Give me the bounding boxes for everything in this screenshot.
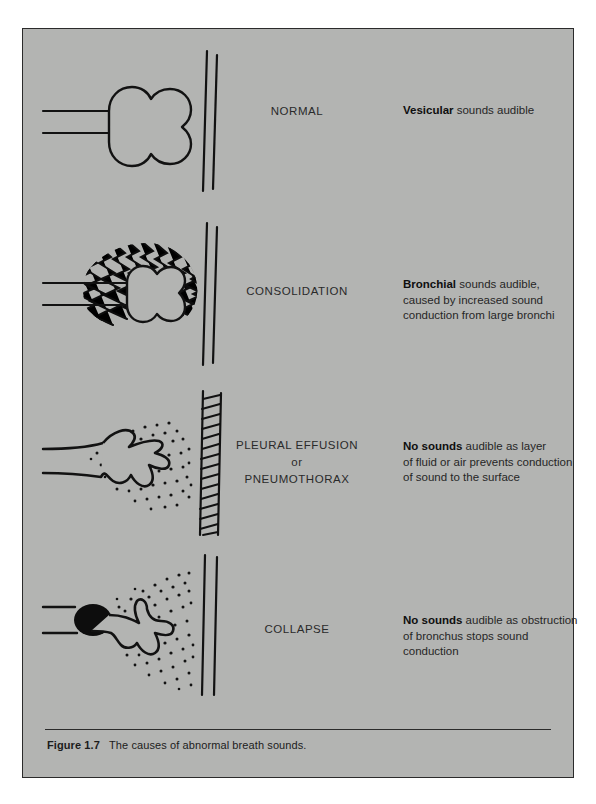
description-line3-effusion: of sound to the surface <box>403 470 579 486</box>
description-bold-collapse: No sounds <box>403 614 462 626</box>
description-consolidation: Bronchial sounds audible, caused by incr… <box>403 277 579 324</box>
collapse-lung-diagram <box>31 545 241 705</box>
description-bold-consolidation: Bronchial <box>403 278 456 290</box>
pleural-effusion-lung-diagram <box>31 385 241 545</box>
caption-divider <box>45 729 551 730</box>
description-line2-collapse: of bronchus stops sound <box>403 629 579 645</box>
normal-lung-diagram <box>31 41 241 201</box>
figure-row-collapse: COLLAPSE No sounds audible as obstructio… <box>23 545 573 705</box>
description-normal: Vesicular sounds audible <box>403 103 579 119</box>
description-collapse: No sounds audible as obstruction of bron… <box>403 613 579 660</box>
description-bold-normal: Vesicular <box>403 104 454 116</box>
figure-caption-label: Figure 1.7 <box>47 739 100 751</box>
description-rest-collapse: audible as obstruction <box>462 614 577 626</box>
description-line2-consolidation: caused by increased sound <box>403 293 579 309</box>
condition-label-collapse: COLLAPSE <box>211 621 383 638</box>
figure-caption-text: The causes of abnormal breath sounds. <box>109 739 307 751</box>
condition-label-effusion-line1: PLEURAL EFFUSION <box>211 437 383 454</box>
figure-row-effusion: PLEURAL EFFUSION or PNEUMOTHORAX No soun… <box>23 385 573 545</box>
condition-label-effusion-line2: or <box>211 454 383 471</box>
description-bold-effusion: No sounds <box>403 440 462 452</box>
figure-panel: NORMAL Vesicular sounds audible <box>22 28 574 778</box>
description-line3-collapse: conduction <box>403 644 579 660</box>
condition-label-effusion-line3: PNEUMOTHORAX <box>211 471 383 488</box>
condition-label-normal: NORMAL <box>211 103 383 120</box>
figure-caption: Figure 1.7The causes of abnormal breath … <box>47 739 307 751</box>
description-effusion: No sounds audible as layer of fluid or a… <box>403 439 579 486</box>
description-rest-effusion: audible as layer <box>462 440 546 452</box>
condition-label-consolidation: CONSOLIDATION <box>211 283 383 300</box>
description-line3-consolidation: conduction from large bronchi <box>403 308 579 324</box>
figure-row-consolidation: CONSOLIDATION Bronchial sounds audible, … <box>23 215 573 375</box>
description-rest-consolidation: sounds audible, <box>456 278 540 290</box>
description-line2-effusion: of fluid or air prevents conduction <box>403 455 579 471</box>
description-rest-normal: sounds audible <box>454 104 535 116</box>
consolidation-lung-diagram <box>31 215 241 375</box>
figure-row-normal: NORMAL Vesicular sounds audible <box>23 41 573 201</box>
condition-label-effusion: PLEURAL EFFUSION or PNEUMOTHORAX <box>211 437 383 488</box>
